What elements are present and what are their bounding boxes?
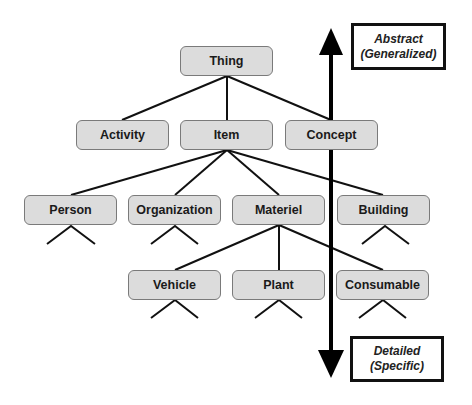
node-activity: Activity [76,120,169,150]
node-vehicle: Vehicle [128,270,221,300]
abstract-label-line1: Abstract [374,32,423,47]
arrow-down-head [318,350,344,378]
abstract-label-line2: (Generalized) [360,47,436,62]
abstract-label-box: Abstract (Generalized) [351,23,446,70]
node-consumable: Consumable [336,270,429,300]
node-plant: Plant [232,270,325,300]
arrow-up-head [319,28,343,55]
node-organization: Organization [128,195,221,225]
node-thing: Thing [180,46,273,76]
node-person: Person [24,195,117,225]
node-building: Building [337,195,430,225]
detailed-label-box: Detailed (Specific) [350,336,444,382]
node-materiel: Materiel [232,195,325,225]
node-concept: Concept [285,120,378,150]
detailed-label-line2: (Specific) [370,359,424,374]
node-item: Item [180,120,273,150]
detailed-label-line1: Detailed [374,344,421,359]
